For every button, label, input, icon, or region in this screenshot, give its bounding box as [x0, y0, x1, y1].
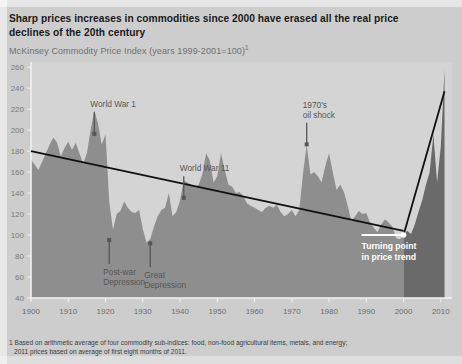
commodity-price-index-chart: 4060801001201401601802002202402601900191… — [0, 58, 462, 328]
x-tick-label: 2000 — [395, 307, 413, 316]
y-tick-label: 120 — [11, 210, 25, 219]
annotation-label: World War 11 — [180, 163, 230, 173]
x-tick-label: 1990 — [357, 307, 375, 316]
chart-svg: 4060801001201401601802002202402601900191… — [0, 58, 462, 328]
annotation-label: 1970's — [303, 100, 327, 110]
y-tick-label: 80 — [15, 252, 24, 261]
footnote-line-1: 1 Based on arithmetic average of four co… — [9, 338, 454, 347]
annotation-arrow-head — [148, 241, 152, 245]
y-tick-label: 180 — [11, 147, 25, 156]
footnote-line-2: 2011 prices based on average of first ei… — [9, 347, 454, 356]
y-tick-label: 60 — [15, 273, 24, 282]
annotation-label: Post-war — [103, 267, 136, 277]
y-tick-label: 100 — [11, 231, 25, 240]
x-tick-label: 1920 — [97, 307, 115, 316]
x-tick-label: 1970 — [283, 307, 301, 316]
y-tick-label: 140 — [11, 189, 25, 198]
y-tick-label: 160 — [11, 168, 25, 177]
x-tick-label: 1980 — [320, 307, 338, 316]
page-edge-top — [0, 0, 462, 7]
annotation-label: World War 1 — [90, 99, 136, 109]
annotation-arrow-head — [92, 132, 96, 136]
annotation-label: oil shock — [303, 110, 336, 120]
chart-subtitle-footnote-marker: 1 — [245, 44, 249, 51]
callout-label: Turning point — [362, 241, 417, 251]
x-tick-label: 2010 — [432, 307, 450, 316]
annotation-label: Depression — [144, 280, 186, 290]
chart-subtitle-text: McKinsey Commodity Price Index (years 19… — [9, 46, 245, 56]
x-tick-label: 1930 — [134, 307, 152, 316]
annotation-arrow-head — [305, 142, 309, 146]
annotation-label: Depression — [103, 277, 145, 287]
x-tick-label: 1900 — [22, 307, 40, 316]
annotation-arrow-head — [107, 238, 111, 242]
callout-marker-dot — [401, 232, 407, 238]
x-tick-label: 1940 — [171, 307, 189, 316]
y-tick-label: 260 — [11, 63, 25, 72]
page-title: Sharp prices increases in commodities si… — [9, 12, 439, 39]
y-tick-label: 240 — [11, 84, 25, 93]
x-tick-label: 1910 — [59, 307, 77, 316]
x-tick-label: 1950 — [208, 307, 226, 316]
annotation-label: Great — [144, 270, 165, 280]
y-tick-label: 220 — [11, 105, 25, 114]
page-edge-bottom — [0, 356, 462, 364]
chart-subtitle: McKinsey Commodity Price Index (years 19… — [9, 44, 439, 56]
y-tick-label: 200 — [11, 126, 25, 135]
footnote: 1 Based on arithmetic average of four co… — [9, 338, 454, 356]
callout-label: in price trend — [362, 252, 416, 262]
y-tick-label: 40 — [15, 294, 24, 303]
annotation-arrow-head — [182, 196, 186, 200]
x-tick-label: 1960 — [246, 307, 264, 316]
chart-page: Sharp prices increases in commodities si… — [0, 0, 462, 364]
